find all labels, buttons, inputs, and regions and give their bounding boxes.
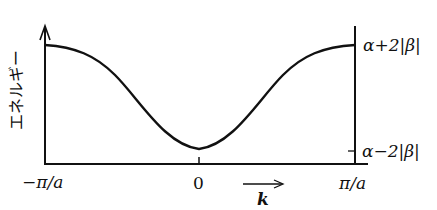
y-axis-label: エネルギー bbox=[7, 50, 26, 130]
x-axis-label: k bbox=[257, 189, 269, 209]
upper-level-label: α+2|β| bbox=[363, 35, 421, 55]
band-diagram: エネルギー −π/a 0 π/a k α+2|β| α−2|β| bbox=[0, 0, 437, 210]
lower-level-label: α−2|β| bbox=[362, 141, 420, 161]
x-tick-neg-pi: −π/a bbox=[22, 172, 63, 192]
x-tick-zero: 0 bbox=[193, 173, 204, 193]
dispersion-curve bbox=[45, 45, 355, 149]
x-tick-pi: π/a bbox=[338, 173, 366, 193]
